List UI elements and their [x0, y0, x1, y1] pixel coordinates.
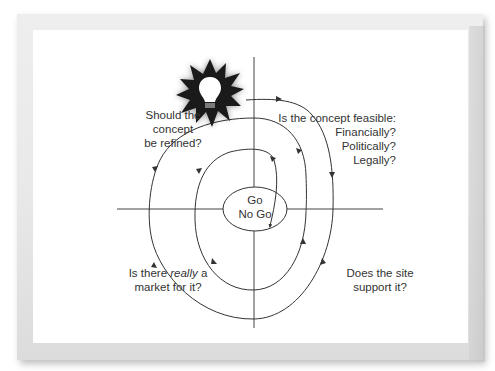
label-line: concept: [128, 122, 218, 136]
spiral-diagram: [0, 0, 495, 371]
label-market-exists: Is there really a market for it?: [108, 266, 228, 294]
label-line: Does the site: [340, 266, 420, 280]
label-line: Should the: [128, 108, 218, 122]
center-line-1: Go: [224, 193, 286, 207]
label-line: market for it?: [108, 280, 228, 294]
label-line: Politically?: [278, 139, 396, 153]
label-line: be refined?: [128, 136, 218, 150]
center-line-2: No Go: [224, 207, 286, 221]
label-line: Legally?: [278, 153, 396, 167]
label-refine-concept: Should the concept be refined?: [128, 108, 218, 150]
label-line: Is the concept feasible:: [278, 111, 396, 125]
label-site-support: Does the site support it?: [340, 266, 420, 294]
label-prefix: Is there: [129, 267, 171, 279]
label-line: support it?: [340, 280, 420, 294]
label-line: Financially?: [278, 125, 396, 139]
go-no-go-label: Go No Go: [224, 193, 286, 221]
label-line: Is there really a: [108, 266, 228, 280]
label-concept-feasible: Is the concept feasible: Financially? Po…: [278, 111, 396, 167]
label-emphasis: really: [170, 267, 197, 279]
label-suffix: a: [198, 267, 208, 279]
